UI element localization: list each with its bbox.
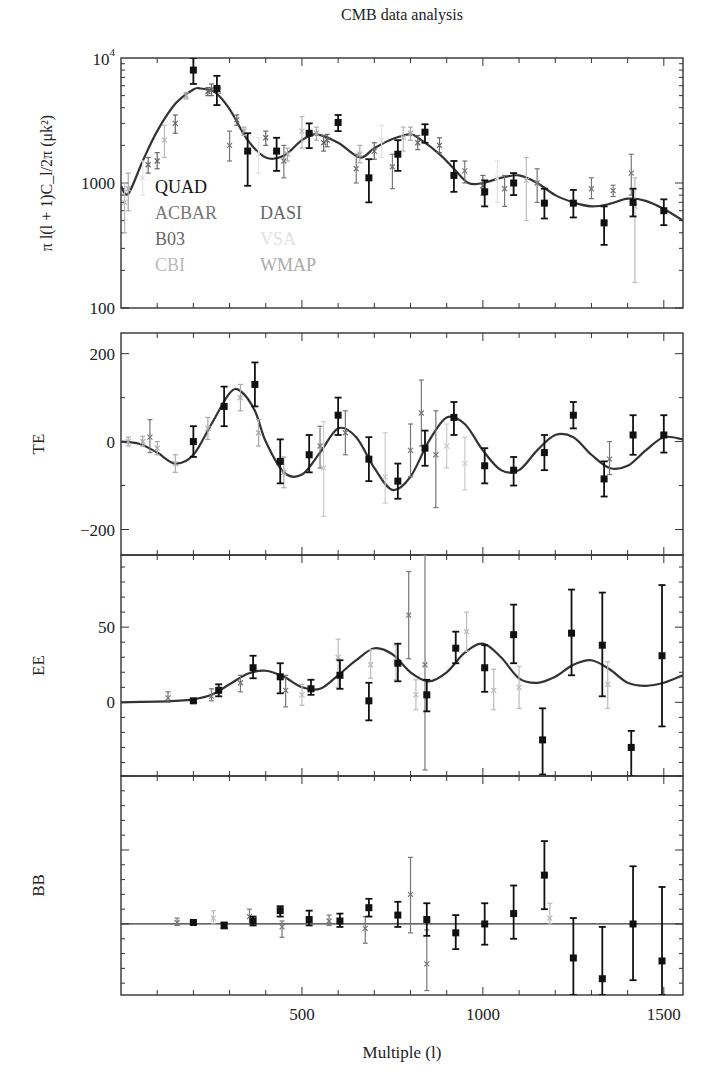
- data-point: [336, 918, 343, 925]
- panel-tt: 1001000104π l(l + 1)C_l/2π (μk²)QUADACBA…: [38, 46, 683, 318]
- data-point: [630, 431, 637, 438]
- x-axis-tick-labels: 50010001500: [289, 1005, 681, 1024]
- model-curve: [121, 644, 683, 703]
- data-point: [601, 219, 608, 226]
- y-tick-label: 0: [107, 693, 116, 712]
- data-point: [570, 955, 577, 962]
- data-point: [335, 119, 342, 126]
- data-point: [630, 199, 637, 206]
- y-axis-label: EE: [29, 655, 48, 676]
- data-point: [660, 431, 667, 438]
- data-point: [660, 207, 667, 214]
- data-point: [510, 180, 517, 187]
- series-dasi: [166, 555, 428, 770]
- chart-title: CMB data analysis: [341, 6, 463, 24]
- data-point: [273, 148, 280, 155]
- data-point: [277, 458, 284, 465]
- data-point: [539, 736, 546, 743]
- panel-frame: [121, 776, 683, 995]
- x-axis-label: Multiple (l): [363, 1043, 442, 1062]
- data-point: [190, 697, 197, 704]
- data-point: [452, 645, 459, 652]
- model-curve: [121, 88, 683, 221]
- data-point: [481, 462, 488, 469]
- data-point: [599, 642, 606, 649]
- data-point: [541, 872, 548, 879]
- data-point: [221, 403, 228, 410]
- data-point: [659, 652, 666, 659]
- x-tick-label: 500: [289, 1005, 315, 1024]
- data-point: [630, 920, 637, 927]
- model-curve: [121, 389, 683, 490]
- data-point: [481, 664, 488, 671]
- data-point: [365, 174, 372, 181]
- data-point: [628, 744, 635, 751]
- data-point: [394, 478, 401, 485]
- data-point: [365, 904, 372, 911]
- series-quad: [190, 841, 666, 995]
- panel-frame: [121, 555, 683, 776]
- data-point: [570, 412, 577, 419]
- y-tick-label: 50: [98, 618, 115, 637]
- data-point: [365, 456, 372, 463]
- data-point: [481, 920, 488, 927]
- x-tick-label: 1500: [647, 1005, 681, 1024]
- data-point: [306, 451, 313, 458]
- data-point: [568, 630, 575, 637]
- data-point: [570, 200, 577, 207]
- data-point: [215, 687, 222, 694]
- data-point: [221, 922, 228, 929]
- y-tick-label: 1000: [81, 174, 115, 193]
- data-point: [190, 67, 197, 74]
- data-point: [394, 660, 401, 667]
- cmb-figure: CMB data analysis 1001000104π l(l + 1)C_…: [0, 0, 711, 1078]
- data-point: [423, 916, 430, 923]
- data-point: [251, 381, 258, 388]
- y-axis-label: π l(l + 1)C_l/2π (μk²): [38, 115, 56, 251]
- data-point: [336, 672, 343, 679]
- data-point: [599, 975, 606, 982]
- data-point: [510, 467, 517, 474]
- data-point: [421, 129, 428, 136]
- data-point: [450, 172, 457, 179]
- y-tick-label: 104: [93, 46, 116, 69]
- legend: QUADACBARB03CBIDASIVSAWMAP: [155, 177, 316, 275]
- data-point: [423, 691, 430, 698]
- data-point: [541, 449, 548, 456]
- panel-frame: [121, 333, 683, 555]
- y-tick-label: 0: [107, 433, 116, 452]
- data-point: [510, 631, 517, 638]
- data-point: [394, 912, 401, 919]
- data-point: [277, 673, 284, 680]
- series-cbi: [299, 612, 610, 710]
- series-cbi: [211, 903, 553, 924]
- data-point: [365, 697, 372, 704]
- data-point: [190, 438, 197, 445]
- x-tick-label: 1000: [466, 1005, 500, 1024]
- data-point: [510, 910, 517, 917]
- data-point: [307, 685, 314, 692]
- data-point: [601, 475, 608, 482]
- data-point: [335, 412, 342, 419]
- panel-ee: 500EE: [29, 555, 683, 776]
- legend-item-vsa: VSA: [260, 229, 296, 249]
- y-tick-label: −200: [80, 521, 115, 540]
- legend-item-dasi: DASI: [260, 203, 302, 223]
- data-point: [306, 916, 313, 923]
- data-point: [277, 907, 284, 914]
- data-point: [250, 664, 257, 671]
- data-point: [659, 957, 666, 964]
- legend-item-b03: B03: [155, 229, 185, 249]
- y-tick-label: 200: [90, 345, 116, 364]
- data-point: [250, 918, 257, 925]
- panel-te: 2000−200TE: [29, 333, 683, 555]
- legend-item-wmap: WMAP: [260, 255, 316, 275]
- cmb-chart: CMB data analysis 1001000104π l(l + 1)C_…: [0, 0, 711, 1078]
- legend-item-quad: QUAD: [155, 177, 207, 197]
- data-point: [394, 151, 401, 158]
- y-tick-label: 100: [90, 299, 116, 318]
- data-point: [213, 85, 220, 92]
- series-quad: [190, 585, 666, 776]
- y-axis-label: BB: [29, 874, 48, 897]
- legend-item-acbar: ACBAR: [155, 203, 217, 223]
